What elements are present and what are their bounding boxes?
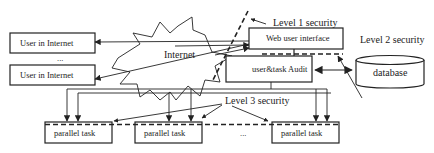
- web-ui-label: Web user interface: [266, 33, 330, 43]
- task2-label: parallel task: [144, 128, 186, 138]
- user-ellipsis: ...: [57, 53, 63, 63]
- arrow-user1-to-web: [175, 45, 249, 46]
- database-cylinder: database: [356, 56, 424, 89]
- security-architecture-diagram: Internet User in Internet ... User in In…: [0, 0, 434, 153]
- task1-label: parallel task: [54, 128, 96, 138]
- user-in-internet-2: User in Internet: [10, 65, 95, 85]
- internet-cloud: Internet: [112, 17, 232, 100]
- user-in-internet-1: User in Internet: [10, 33, 95, 53]
- level3-pointer-1: [114, 104, 222, 121]
- task-ellipsis: ...: [240, 128, 246, 138]
- level1-label: Level 1 security: [273, 17, 337, 28]
- user2-label: User in Internet: [20, 70, 74, 80]
- task-bus: [67, 82, 331, 121]
- audit-label: user&task Audit: [252, 64, 308, 74]
- level2-label: Level 2 security: [360, 34, 424, 45]
- internet-label: Internet: [164, 49, 195, 60]
- user1-label: User in Internet: [20, 38, 74, 48]
- database-label: database: [373, 67, 408, 78]
- web-user-interface-box: Web user interface: [249, 28, 343, 49]
- arrow-web-to-user1: [95, 41, 249, 42]
- task3-label: parallel task: [281, 128, 323, 138]
- user-task-audit-box: user&task Audit: [226, 56, 312, 82]
- level3-label: Level 3 security: [225, 95, 289, 106]
- level1-pointer: [251, 19, 266, 24]
- level3-pointer-3: [232, 106, 268, 121]
- arrow-user2-to-web: [215, 48, 249, 55]
